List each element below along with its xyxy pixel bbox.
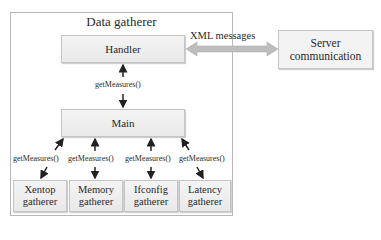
- memory-line2: gatherer: [78, 196, 114, 208]
- latency-gatherer-node: Latencygatherer: [179, 180, 231, 212]
- xentop-line2: gatherer: [23, 196, 57, 208]
- xml-messages-label: XML messages: [190, 30, 255, 41]
- ifconfig-line2: gatherer: [134, 196, 168, 208]
- server-communication-node: Server communication: [278, 30, 373, 69]
- main-node: Main: [61, 109, 185, 137]
- memory-gatherer-node: Memorygatherer: [69, 180, 123, 212]
- latency-line2: gatherer: [188, 196, 222, 208]
- ifconfig-line1: Ifconfig: [134, 184, 168, 196]
- memory-edge-label: getMeasures(): [68, 154, 114, 163]
- ifconfig-edge-label: getMeasures(): [125, 154, 171, 163]
- latency-line1: Latency: [188, 184, 222, 196]
- server-label-line2: communication: [290, 50, 362, 63]
- handler-main-label: getMeasures(): [95, 80, 141, 89]
- handler-node: Handler: [61, 35, 185, 63]
- xentop-edge-label: getMeasures(): [13, 154, 59, 163]
- xentop-line1: Xentop: [23, 184, 57, 196]
- xml-double-arrow: [186, 42, 278, 56]
- xentop-gatherer-node: Xentopgatherer: [13, 180, 67, 212]
- memory-line1: Memory: [78, 184, 114, 196]
- ifconfig-gatherer-node: Ifconfiggatherer: [124, 180, 178, 212]
- latency-edge-label: getMeasures(): [179, 154, 225, 163]
- server-label-line1: Server: [290, 37, 362, 50]
